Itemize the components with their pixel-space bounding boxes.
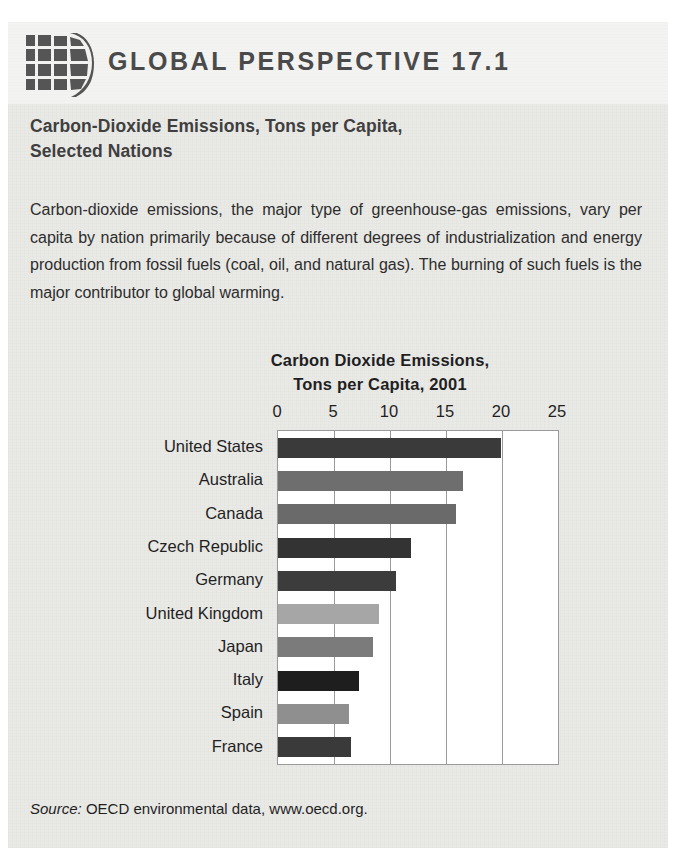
bar-row: [278, 664, 558, 697]
y-axis-category-labels: United StatesAustraliaCanadaCzech Republ…: [0, 430, 271, 763]
box-body-text: Carbon-dioxide emissions, the major type…: [30, 196, 642, 306]
chart-title-line1: Carbon Dioxide Emissions,: [150, 348, 610, 372]
x-tick-label: 25: [548, 402, 566, 421]
bar: [278, 637, 373, 657]
x-axis-tick-labels: 0510152025: [277, 402, 557, 424]
category-label: Japan: [218, 630, 263, 663]
bar: [278, 737, 351, 757]
category-label: France: [212, 730, 263, 763]
bar-row: [278, 731, 558, 764]
chart-title: Carbon Dioxide Emissions, Tons per Capit…: [150, 348, 610, 396]
bar: [278, 438, 501, 458]
globe-grid-icon: [26, 33, 94, 99]
x-tick-label: 5: [328, 402, 337, 421]
bar-chart: Carbon Dioxide Emissions, Tons per Capit…: [0, 348, 689, 788]
bar-row: [278, 498, 558, 531]
x-tick-label: 20: [492, 402, 510, 421]
source-label: Source:: [30, 800, 82, 817]
bar: [278, 704, 349, 724]
x-tick-label: 10: [380, 402, 398, 421]
category-label: Italy: [233, 663, 263, 696]
bars-group: [278, 431, 558, 764]
header-title: GLOBAL PERSPECTIVE 17.1: [108, 47, 511, 76]
bar: [278, 604, 379, 624]
category-label: Germany: [195, 563, 263, 596]
bar-row: [278, 631, 558, 664]
plot-area: [277, 430, 559, 765]
category-label: Spain: [221, 696, 263, 729]
box-title-line2: Selected Nations: [30, 139, 630, 164]
source-text: OECD environmental data, www.oecd.org.: [86, 800, 368, 817]
bar-row: [278, 464, 558, 497]
category-label: United Kingdom: [146, 597, 263, 630]
bar-row: [278, 531, 558, 564]
bar-row: [278, 697, 558, 730]
bar-row: [278, 564, 558, 597]
category-label: Canada: [205, 497, 263, 530]
bar: [278, 471, 463, 491]
x-tick-label: 15: [436, 402, 454, 421]
global-perspective-box: GLOBAL PERSPECTIVE 17.1 Carbon-Dioxide E…: [0, 0, 689, 867]
category-label: United States: [164, 430, 263, 463]
bar: [278, 538, 411, 558]
divider: [8, 788, 668, 789]
bar-row: [278, 431, 558, 464]
bar: [278, 504, 456, 524]
box-title-line1: Carbon-Dioxide Emissions, Tons per Capit…: [30, 114, 630, 139]
bar-row: [278, 598, 558, 631]
bar: [278, 571, 396, 591]
bar: [278, 671, 359, 691]
category-label: Australia: [199, 463, 263, 496]
chart-title-line2: Tons per Capita, 2001: [150, 372, 610, 396]
source-line: Source: OECD environmental data, www.oec…: [30, 800, 368, 817]
box-title: Carbon-Dioxide Emissions, Tons per Capit…: [30, 114, 630, 164]
x-tick-label: 0: [272, 402, 281, 421]
category-label: Czech Republic: [147, 530, 263, 563]
